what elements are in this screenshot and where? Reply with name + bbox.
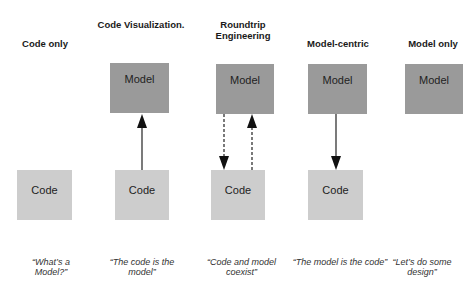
arrow-up-icon [137, 114, 147, 170]
quote-code-only: “What’s a Model?” [26, 257, 76, 277]
arrows-layer [0, 0, 476, 288]
quote-model-centric: “The model is the code” [290, 257, 390, 267]
arrow-down-icon [331, 114, 341, 170]
quote-roundtrip: “Code and model coexist” [199, 257, 284, 277]
dashed-arrow-up-icon [247, 114, 257, 170]
quote-model-only: “Let’s do some design” [392, 257, 452, 277]
quote-code-visualization: “The code is the model” [102, 257, 182, 277]
dashed-arrow-down-icon [219, 114, 229, 170]
